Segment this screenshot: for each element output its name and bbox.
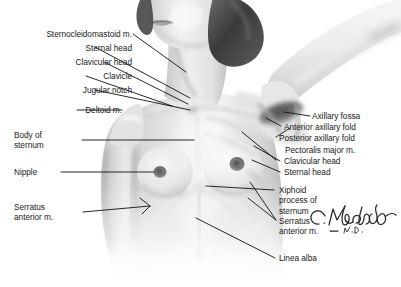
label-serratus-left-line2: anterior m.: [14, 212, 134, 222]
label-xiphoid-line3: sternum: [279, 206, 317, 216]
label-body-of-sternum: Body of sternum: [14, 130, 134, 151]
label-sternal-head-right: Sternal head: [284, 167, 330, 177]
label-clavicular-head-right: Clavicular head: [284, 156, 340, 166]
label-serratus-right-line1: Serratus: [279, 216, 318, 226]
label-serratus-left-line1: Serratus: [14, 202, 134, 212]
label-xiphoid-line1: Xiphoid: [279, 185, 317, 195]
label-pectoralis-major: Pectoralis major m.: [285, 145, 355, 155]
bottom-fade-2: [0, 238, 401, 287]
label-jugular-notch: Jugular notch: [12, 85, 132, 95]
label-axillary-fossa: Axillary fossa: [312, 111, 360, 121]
label-sternocleidomastoid: Sternocleidomastoid m.: [12, 29, 132, 39]
anatomy-illustration-figure: Sternocleidomastoid m. Sternal head Clav…: [0, 0, 401, 287]
label-posterior-axillary-fold: Posterior axillary fold: [279, 133, 355, 143]
label-xiphoid-line2: process of: [279, 195, 317, 205]
label-xiphoid-process: Xiphoid process of sternum: [279, 185, 317, 216]
label-body-of-sternum-line2: sternum: [14, 140, 134, 150]
label-serratus-anterior-right: Serratus anterior m.: [279, 216, 318, 237]
label-deltoid: Deltoid m.: [12, 105, 122, 115]
label-anterior-axillary-fold: Anterior axillary fold: [284, 122, 356, 132]
label-linea-alba: Linea alba: [279, 253, 317, 263]
label-nipple: Nipple: [14, 167, 114, 177]
label-serratus-anterior-left: Serratus anterior m.: [14, 202, 134, 223]
label-clavicle: Clavicle: [32, 71, 132, 81]
label-clavicular-head-left: Clavicular head: [14, 57, 132, 67]
label-body-of-sternum-line1: Body of: [14, 130, 134, 140]
label-serratus-right-line2: anterior m.: [279, 226, 318, 236]
label-sternal-head-left: Sternal head: [22, 43, 132, 53]
